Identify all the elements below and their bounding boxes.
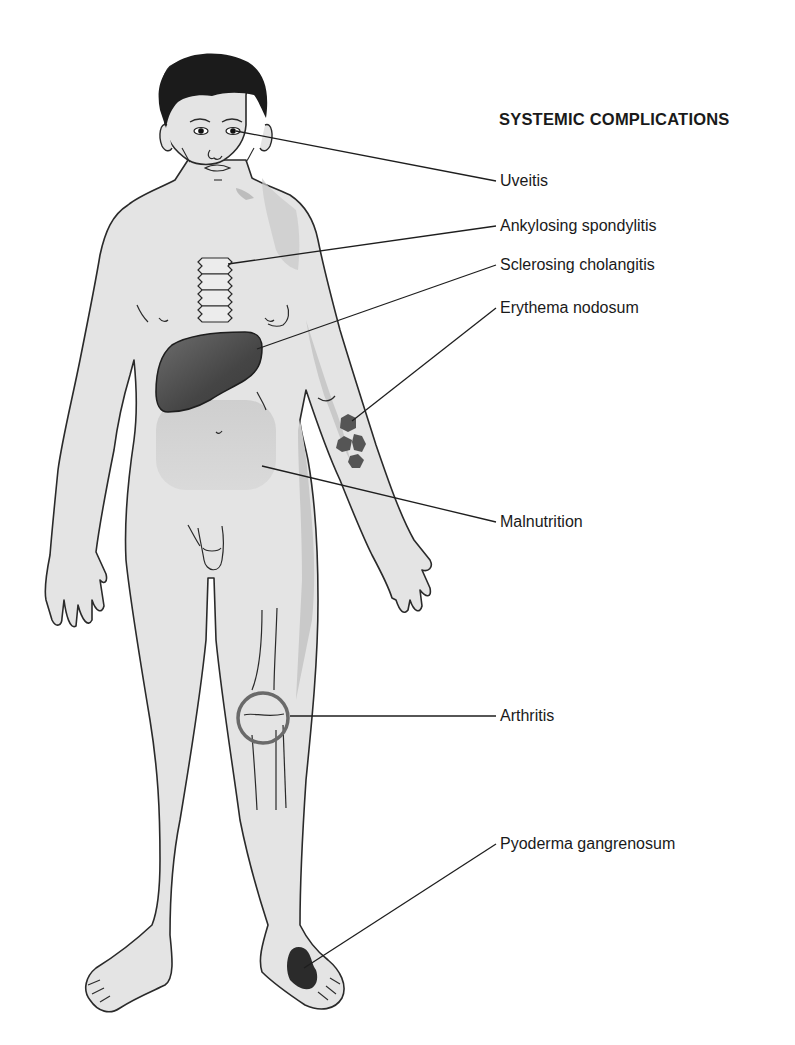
label-sclerosing-cholangitis: Sclerosing cholangitis — [500, 255, 655, 275]
label-malnutrition: Malnutrition — [500, 512, 583, 532]
label-erythema-nodosum: Erythema nodosum — [500, 298, 639, 318]
label-arthritis: Arthritis — [500, 706, 554, 726]
abdomen-shade — [156, 400, 276, 490]
body-diagram — [0, 0, 795, 1045]
leader-pyoderma — [304, 844, 496, 968]
body-silhouette — [45, 160, 431, 1012]
diagram-title: SYSTEMIC COMPLICATIONS — [499, 110, 730, 129]
leader-uveitis — [236, 131, 496, 181]
spine-icon — [198, 258, 232, 322]
label-uveitis: Uveitis — [500, 171, 548, 191]
label-ankylosing-spondylitis: Ankylosing spondylitis — [500, 216, 657, 236]
leader-erythema — [352, 308, 496, 421]
label-pyoderma-gangrenosum: Pyoderma gangrenosum — [500, 834, 675, 854]
